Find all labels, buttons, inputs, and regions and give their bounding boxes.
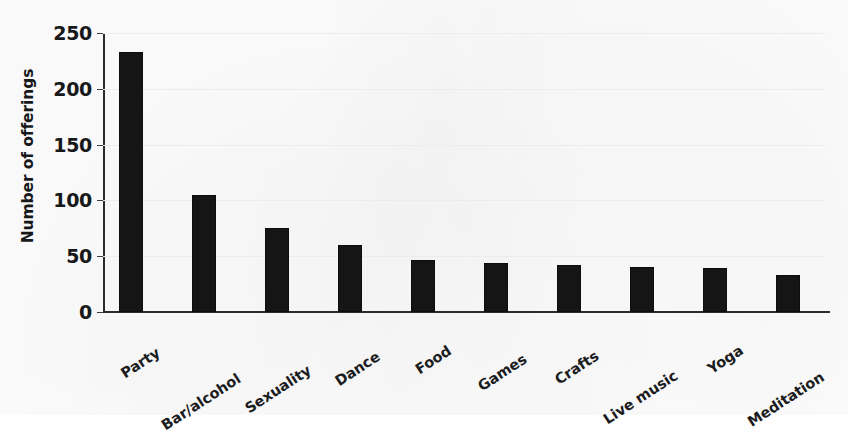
x-axis-tick-label: Sexuality: [242, 362, 314, 416]
y-axis-tick-label: 100: [48, 189, 92, 211]
x-axis-tick-labels: PartyBar/alcoholSexualityDanceFoodGamesC…: [0, 313, 848, 415]
bar[interactable]: [703, 268, 727, 312]
x-axis-tick-label: Bar/alcohol: [159, 370, 244, 433]
gridline: [103, 89, 825, 90]
x-axis-tick-label: Dance: [332, 348, 383, 389]
x-axis-tick-label: Crafts: [552, 348, 602, 388]
y-axis-tick-mark: [97, 256, 103, 257]
x-axis-tick-label: Games: [475, 351, 530, 394]
bar[interactable]: [630, 267, 654, 312]
bar[interactable]: [265, 228, 289, 312]
plot-area: [103, 33, 830, 312]
y-axis-tick-mark: [97, 200, 103, 201]
bar[interactable]: [776, 275, 800, 312]
gridline: [103, 33, 825, 34]
x-axis-tick-label: Food: [412, 342, 454, 377]
x-axis-tick-label: Live music: [600, 367, 680, 427]
y-axis-tick-mark: [97, 33, 103, 34]
bar[interactable]: [119, 52, 143, 312]
y-axis-tick-mark: [97, 145, 103, 146]
bar[interactable]: [557, 265, 581, 312]
y-axis-title: Number of offerings: [14, 0, 42, 312]
y-axis-tick-label: 50: [48, 245, 92, 267]
y-axis-tick-label: 150: [48, 134, 92, 156]
x-axis-tick-label: Party: [118, 344, 163, 381]
gridline: [103, 145, 825, 146]
y-axis-tick-label: 200: [48, 78, 92, 100]
y-axis-title-text: Number of offerings: [19, 69, 37, 244]
x-axis-tick-label: Yoga: [705, 342, 746, 377]
x-axis-tick-label: Meditation: [745, 369, 827, 430]
y-axis-tick-label: 250: [48, 22, 92, 44]
bar[interactable]: [411, 260, 435, 312]
bar[interactable]: [484, 263, 508, 312]
bar[interactable]: [192, 195, 216, 312]
y-axis-tick-mark: [97, 89, 103, 90]
bar[interactable]: [338, 245, 362, 312]
